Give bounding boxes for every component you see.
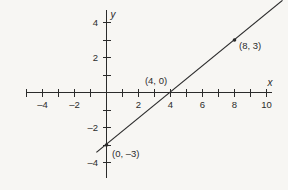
x-tick-label-neg4: –4 [37, 99, 48, 110]
coordinate-plane-figure: –4 –2 2 4 6 8 10 4 2 –2 –4 x y (8, 3) (4… [0, 0, 288, 190]
point-label-4-0: (4, 0) [145, 75, 167, 86]
y-axis-label: y [110, 9, 117, 20]
graph-svg: –4 –2 2 4 6 8 10 4 2 –2 –4 x y (8, 3) (4… [0, 0, 288, 190]
x-tick-label-2: 2 [136, 99, 141, 110]
y-tick-label-4: 4 [93, 17, 98, 28]
plotted-line [96, 0, 282, 152]
x-tick-label-neg2: –2 [69, 99, 80, 110]
point-label-0-neg3: (0, –3) [112, 148, 139, 159]
x-tick-label-4: 4 [168, 99, 173, 110]
y-tick-label-neg2: –2 [87, 122, 98, 133]
x-tick-label-10: 10 [261, 99, 272, 110]
point-label-8-3: (8, 3) [239, 40, 261, 51]
x-tick-label-6: 6 [200, 99, 205, 110]
x-axis-label: x [267, 77, 274, 88]
axes-group [26, 10, 272, 178]
y-tick-label-neg4: –4 [87, 157, 98, 168]
y-tick-label-2: 2 [93, 52, 98, 63]
data-point-0-neg3 [105, 143, 109, 147]
x-tick-label-8: 8 [232, 99, 237, 110]
data-point-8-3 [233, 38, 237, 42]
